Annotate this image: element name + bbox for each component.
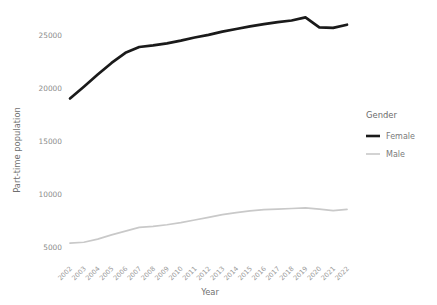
x-axis-title: Year bbox=[200, 287, 219, 297]
y-tick-label: 20000 bbox=[38, 84, 62, 93]
y-tick-label: 15000 bbox=[38, 137, 62, 146]
legend-title: Gender bbox=[366, 110, 397, 120]
y-tick-label: 25000 bbox=[38, 31, 62, 40]
legend-label-male[interactable]: Male bbox=[386, 150, 405, 159]
legend-label-female[interactable]: Female bbox=[386, 132, 415, 141]
y-axis-title: Part-time population bbox=[12, 107, 22, 193]
line-chart: 500010000150002000025000 200220032004200… bbox=[0, 0, 437, 305]
chart-background bbox=[0, 0, 437, 305]
y-tick-label: 5000 bbox=[43, 243, 62, 252]
y-tick-label: 10000 bbox=[38, 190, 62, 199]
chart-container: 500010000150002000025000 200220032004200… bbox=[0, 0, 437, 305]
